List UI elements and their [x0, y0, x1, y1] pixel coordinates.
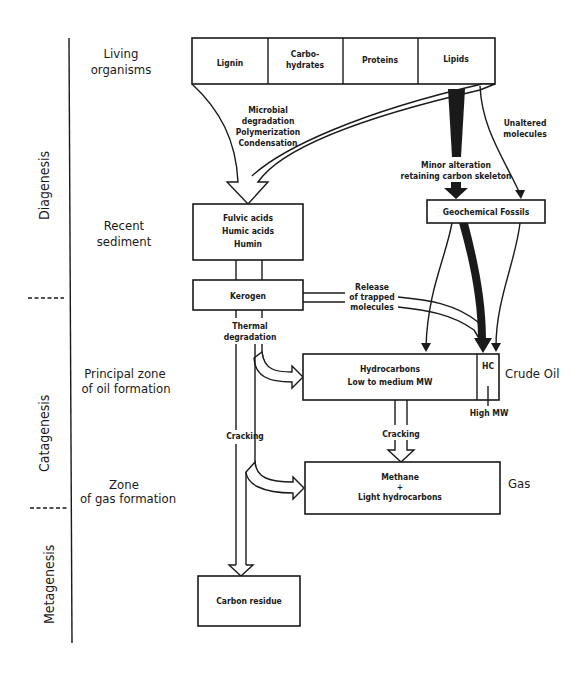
svg-text:molecules: molecules — [503, 129, 547, 139]
minor-alteration-arrowhead — [444, 182, 468, 199]
fossils-to-hydrocarbons-arrowhead — [421, 343, 431, 352]
svg-text:Humin: Humin — [234, 239, 262, 249]
svg-text:degradation: degradation — [242, 116, 295, 126]
stage-axis-line — [69, 38, 72, 643]
unaltered-arrowhead — [515, 190, 525, 199]
svg-text:Minor alteration: Minor alteration — [421, 160, 491, 170]
zone-recent-line2: sediment — [97, 234, 152, 249]
svg-text:Polymerization: Polymerization — [236, 127, 301, 137]
svg-text:Low to medium MW: Low to medium MW — [348, 377, 433, 387]
svg-text:Light hydrocarbons: Light hydrocarbons — [358, 492, 442, 502]
cell-lipids: Lipids — [443, 54, 469, 64]
high-mw-label: High MW — [470, 408, 509, 418]
svg-text:Humic acids: Humic acids — [222, 226, 274, 236]
thermal-label: Thermal degradation — [224, 321, 277, 342]
zone-labels: Living organisms Recent sediment Princip… — [80, 46, 176, 506]
organisms-box: Lignin Carbo- hydrates Proteins Lipids — [192, 38, 495, 84]
stage-label-catagenesis: Catagenesis — [36, 395, 52, 472]
zone-recent-line1: Recent — [104, 218, 145, 233]
zone-oil-line2: of oil formation — [81, 381, 170, 396]
cell-proteins: Proteins — [362, 55, 399, 65]
cell-lignin: Lignin — [217, 58, 243, 68]
stage-label-diagenesis: Diagenesis — [36, 151, 52, 220]
svg-text:Unaltered: Unaltered — [504, 118, 547, 128]
gas-label: Gas — [508, 476, 530, 491]
zone-gas-line2: of gas formation — [80, 491, 176, 506]
hc-label: HC — [482, 361, 494, 371]
cell-carbohydrates-line2: hydrates — [286, 60, 325, 70]
kerogen-to-hydrocarbons-arrow — [254, 352, 303, 388]
kerogen-label: Kerogen — [230, 291, 266, 301]
stage-label-metagenesis: Metagenesis — [41, 545, 57, 624]
svg-text:Fulvic acids: Fulvic acids — [223, 213, 273, 223]
svg-text:retaining carbon skeleton: retaining carbon skeleton — [400, 171, 511, 181]
fossils-to-hydrocarbons-arrow — [426, 223, 452, 346]
carbon-residue-label: Carbon residue — [216, 596, 282, 606]
cracking-mid-label: Cracking — [382, 429, 420, 439]
unaltered-label: Unaltered molecules — [503, 118, 547, 139]
to-methane-arrow — [246, 462, 304, 499]
zone-living-line2: organisms — [91, 62, 152, 77]
minor-alteration-label: Minor alteration retaining carbon skelet… — [400, 160, 511, 181]
zone-living-line1: Living — [104, 46, 139, 61]
cracking-left-label: Cracking — [226, 431, 264, 441]
svg-text:Methane: Methane — [381, 472, 419, 482]
svg-text:of trapped: of trapped — [349, 292, 394, 302]
minor-alteration-arrow — [448, 89, 465, 157]
cell-carbohydrates-line1: Carbo- — [291, 49, 319, 59]
svg-text:molecules: molecules — [350, 302, 394, 312]
svg-text:Condensation: Condensation — [238, 138, 297, 148]
svg-text:Thermal: Thermal — [232, 321, 267, 331]
release-label: Release of trapped molecules — [349, 282, 394, 312]
svg-text:degradation: degradation — [224, 332, 277, 342]
svg-text:Microbial: Microbial — [248, 105, 288, 115]
microbial-label: Microbial degradation Polymerization Con… — [236, 105, 301, 148]
geochemical-fossils-label: Geochemical Fossils — [443, 207, 530, 217]
diagram-canvas: Diagenesis Catagenesis Metagenesis Livin… — [0, 0, 588, 676]
svg-text:Release: Release — [355, 282, 389, 292]
fossils-to-hc-right-arrow — [496, 223, 520, 346]
fossils-to-hc-thick-arrowhead — [474, 338, 492, 353]
zone-oil-line1: Principal zone — [84, 366, 165, 381]
crude-oil-label: Crude Oil — [505, 366, 559, 381]
svg-text:+: + — [397, 482, 403, 492]
zone-gas-line1: Zone — [109, 477, 139, 492]
fossils-to-hc-right-arrowhead — [491, 343, 501, 352]
svg-text:Hydrocarbons: Hydrocarbons — [360, 364, 421, 374]
